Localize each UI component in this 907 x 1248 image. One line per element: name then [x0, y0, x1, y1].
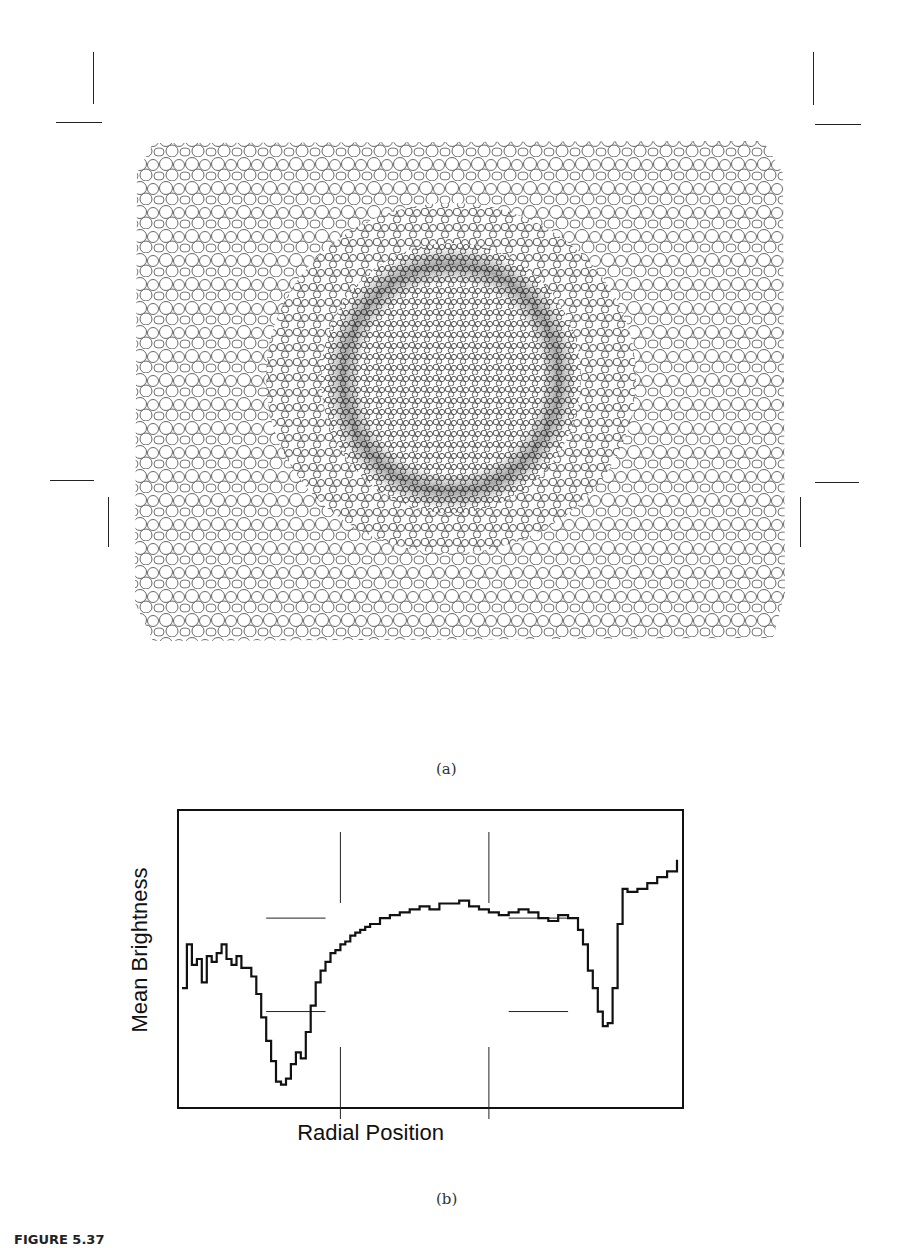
crop-mark-bottom-right-vertical — [800, 497, 801, 547]
panel-b-label: (b) — [436, 1190, 457, 1208]
crop-mark-top-right-vertical — [813, 52, 814, 105]
crop-mark-top-left-horizontal — [56, 122, 102, 123]
figure-caption-label: FIGURE 5.37 — [14, 1232, 104, 1247]
crop-mark-top-right-horizontal — [815, 124, 861, 125]
figure-caption: FIGURE 5.37 — [14, 1232, 104, 1247]
crop-mark-bottom-left-vertical — [108, 497, 109, 547]
brightness-profile-chart — [170, 775, 780, 1125]
tissue-micrograph — [133, 133, 787, 643]
crop-mark-top-left-vertical — [93, 52, 94, 104]
crop-mark-bottom-right-horizontal — [815, 482, 859, 483]
plot-frame — [178, 810, 683, 1108]
x-axis-label: Radial Position — [0, 1120, 824, 1146]
y-axis-label: Mean Brightness — [127, 867, 153, 1032]
crop-mark-bottom-left-horizontal — [50, 480, 94, 481]
